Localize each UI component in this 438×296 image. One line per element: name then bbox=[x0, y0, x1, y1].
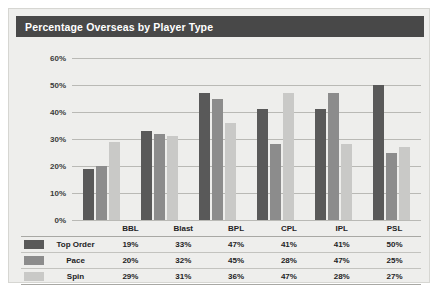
bar bbox=[257, 109, 268, 220]
legend-swatch-cell bbox=[21, 237, 47, 253]
bar bbox=[154, 134, 165, 220]
category-header-bpl: BPL bbox=[210, 221, 263, 237]
category-header-psl: PSL bbox=[368, 221, 421, 237]
value-cell: 41% bbox=[262, 237, 315, 253]
table-row: Spin29%31%36%47%28%27% bbox=[21, 269, 421, 285]
table-body: Top Order19%33%47%41%41%50%Pace20%32%45%… bbox=[21, 237, 421, 285]
value-cell: 47% bbox=[210, 237, 263, 253]
legend-swatch bbox=[24, 272, 44, 281]
value-cell: 31% bbox=[157, 269, 210, 285]
bar bbox=[141, 131, 152, 220]
category-header-cpl: CPL bbox=[262, 221, 315, 237]
bar-group bbox=[130, 58, 188, 220]
table-corner-header bbox=[21, 221, 47, 237]
y-axis-tick-label: 40% bbox=[50, 108, 66, 117]
value-cell: 28% bbox=[262, 253, 315, 269]
table-row: Pace20%32%45%28%47%25% bbox=[21, 253, 421, 269]
category-header-ipl: IPL bbox=[315, 221, 368, 237]
value-cell: 28% bbox=[315, 269, 368, 285]
category-header-bbl: BBL bbox=[104, 221, 157, 237]
data-table: BBLBlastBPLCPLIPLPSL Top Order19%33%47%4… bbox=[21, 221, 421, 285]
y-axis-tick-label: 60% bbox=[50, 54, 66, 63]
value-cell: 50% bbox=[368, 237, 421, 253]
value-cell: 47% bbox=[262, 269, 315, 285]
series-name: Top Order bbox=[47, 237, 104, 253]
bar bbox=[96, 166, 107, 220]
bar bbox=[373, 85, 384, 220]
table-header-row: BBLBlastBPLCPLIPLPSL bbox=[21, 221, 421, 237]
bar bbox=[109, 142, 120, 220]
legend-swatch-cell bbox=[21, 253, 47, 269]
bar bbox=[225, 123, 236, 220]
bar-group bbox=[188, 58, 246, 220]
bar bbox=[167, 136, 178, 220]
series-name: Pace bbox=[47, 253, 104, 269]
chart-title-bar: Percentage Overseas by Player Type bbox=[16, 16, 424, 37]
bar bbox=[199, 93, 210, 220]
series-name: Spin bbox=[47, 269, 104, 285]
value-cell: 32% bbox=[157, 253, 210, 269]
bar bbox=[212, 99, 223, 221]
chart-card: Percentage Overseas by Player Type 0%10%… bbox=[8, 8, 430, 283]
legend-swatch bbox=[24, 256, 44, 265]
value-cell: 33% bbox=[157, 237, 210, 253]
legend-swatch bbox=[24, 240, 44, 249]
data-table-block: BBLBlastBPLCPLIPLPSL Top Order19%33%47%4… bbox=[21, 221, 421, 285]
bar bbox=[270, 144, 281, 220]
table-series-header bbox=[47, 221, 104, 237]
value-cell: 25% bbox=[368, 253, 421, 269]
value-cell: 20% bbox=[104, 253, 157, 269]
value-cell: 27% bbox=[368, 269, 421, 285]
category-header-blast: Blast bbox=[157, 221, 210, 237]
bar bbox=[386, 153, 397, 221]
bar bbox=[283, 93, 294, 220]
bar-group bbox=[363, 58, 421, 220]
bar-group bbox=[305, 58, 363, 220]
page-title: Percentage Overseas by Player Type bbox=[16, 21, 213, 33]
value-cell: 29% bbox=[104, 269, 157, 285]
bar bbox=[341, 144, 352, 220]
y-axis-tick-label: 10% bbox=[50, 189, 66, 198]
bar-group bbox=[247, 58, 305, 220]
bar bbox=[328, 93, 339, 220]
y-axis-tick-label: 50% bbox=[50, 81, 66, 90]
bar bbox=[83, 169, 94, 220]
table-row: Top Order19%33%47%41%41%50% bbox=[21, 237, 421, 253]
plot-area: 0%10%20%30%40%50%60% bbox=[72, 58, 421, 220]
y-axis-tick-label: 30% bbox=[50, 135, 66, 144]
bars-layer bbox=[72, 58, 421, 220]
legend-swatch-cell bbox=[21, 269, 47, 285]
value-cell: 45% bbox=[210, 253, 263, 269]
value-cell: 19% bbox=[104, 237, 157, 253]
bar bbox=[315, 109, 326, 220]
y-axis-tick-label: 20% bbox=[50, 162, 66, 171]
value-cell: 47% bbox=[315, 253, 368, 269]
value-cell: 41% bbox=[315, 237, 368, 253]
value-cell: 36% bbox=[210, 269, 263, 285]
bar-group bbox=[72, 58, 130, 220]
bar bbox=[399, 147, 410, 220]
